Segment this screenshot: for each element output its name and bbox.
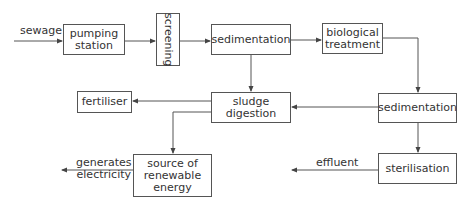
sterilisation-node: sterilisation [378, 153, 457, 184]
sedimentation-node-1: sedimentation [211, 24, 291, 55]
effluent-label: effluent [316, 157, 358, 169]
sludge-digestion-node: sludge digestion [211, 92, 291, 123]
fertiliser-node: fertiliser [77, 91, 132, 113]
screening-node: screening [156, 13, 180, 66]
renewable-energy-node: source of renewable energy [133, 154, 212, 197]
sewage-treatment-diagram: sewage pumping station screening sedimen… [0, 0, 471, 209]
sedimentation-node-2: sedimentation [378, 93, 457, 123]
pumping-station-node: pumping station [63, 24, 125, 55]
biological-treatment-node: biological treatment [322, 23, 383, 54]
sewage-label: sewage [20, 25, 62, 37]
generates-electricity-label: generates electricity [76, 157, 132, 181]
